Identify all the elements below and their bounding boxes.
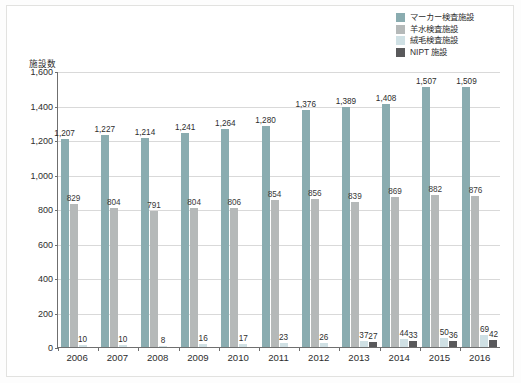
bar[interactable]: 869 xyxy=(391,197,399,347)
bar-value-label: 882 xyxy=(428,185,442,194)
bar-value-label: 1,214 xyxy=(135,128,156,137)
bar[interactable]: 10 xyxy=(119,345,127,347)
x-axis-labels: 2006200720082009201020112012201320142015… xyxy=(57,352,500,363)
bar[interactable]: 8 xyxy=(159,346,167,347)
legend-item: 絨毛検査施設 xyxy=(396,35,516,47)
y-tick-label: 1,600 xyxy=(30,67,53,77)
bar[interactable]: 44 xyxy=(400,339,408,347)
x-axis-label: 2015 xyxy=(419,352,459,363)
bar-group: 1,28085423 xyxy=(259,72,299,347)
bars: 1,3898393727 xyxy=(342,72,377,347)
legend-swatch-icon xyxy=(396,13,405,22)
bar-value-label: 26 xyxy=(319,333,328,342)
bar-value-label: 806 xyxy=(228,198,242,207)
bar[interactable]: 10 xyxy=(79,345,87,347)
bar-value-label: 1,389 xyxy=(336,97,357,106)
legend-label: 羊水検査施設 xyxy=(410,25,458,34)
bar[interactable]: 856 xyxy=(311,199,319,347)
y-tick-label: 1,400 xyxy=(30,102,53,112)
bar-value-label: 804 xyxy=(107,198,121,207)
bar[interactable]: 1,507 xyxy=(422,87,430,347)
x-tick-mark xyxy=(299,347,300,351)
bar-group: 1,20782910 xyxy=(58,72,98,347)
bars: 1,2147918 xyxy=(141,72,176,347)
bar[interactable]: 1,214 xyxy=(141,138,149,347)
y-tick-label: 0 xyxy=(48,343,53,353)
bar[interactable]: 27 xyxy=(369,342,377,347)
bar[interactable]: 791 xyxy=(150,211,158,347)
bars: 1,37685626 xyxy=(302,72,337,347)
bar-value-label: 36 xyxy=(449,331,458,340)
bar[interactable]: 1,509 xyxy=(462,87,470,347)
bars: 1,4088694433 xyxy=(382,72,417,347)
bar-group: 1,24180416 xyxy=(179,72,219,347)
bar-value-label: 856 xyxy=(308,189,322,198)
bar[interactable]: 804 xyxy=(190,208,198,347)
bar-value-label: 1,509 xyxy=(456,77,477,86)
legend-item: 羊水検査施設 xyxy=(396,24,516,36)
bar[interactable]: 37 xyxy=(360,341,368,347)
bar-value-label: 1,376 xyxy=(295,100,316,109)
bar[interactable]: 1,389 xyxy=(342,107,350,347)
bar-value-label: 8 xyxy=(161,336,166,345)
bar[interactable]: 1,264 xyxy=(221,129,229,347)
legend-label: 絨毛検査施設 xyxy=(410,36,458,45)
bar-group: 1,2147918 xyxy=(138,72,178,347)
bar[interactable]: 42 xyxy=(489,340,497,347)
x-axis-label: 2013 xyxy=(339,352,379,363)
bar[interactable]: 1,207 xyxy=(61,139,69,347)
bar[interactable]: 33 xyxy=(409,341,417,347)
bar[interactable]: 854 xyxy=(271,200,279,347)
x-tick-mark xyxy=(58,347,59,351)
y-tick-label: 400 xyxy=(38,274,53,284)
x-tick-mark xyxy=(259,347,260,351)
bar-value-label: 27 xyxy=(368,332,377,341)
chart-legend: マーカー検査施設羊水検査施設絨毛検査施設NIPT 施設 xyxy=(396,12,516,58)
bar[interactable]: 1,408 xyxy=(382,104,390,347)
bar-value-label: 804 xyxy=(187,198,201,207)
bar[interactable]: 1,241 xyxy=(181,133,189,347)
bar[interactable]: 50 xyxy=(440,338,448,347)
bar-value-label: 69 xyxy=(480,325,489,334)
bar[interactable]: 17 xyxy=(239,344,247,347)
bar-value-label: 869 xyxy=(388,187,402,196)
bar[interactable]: 1,227 xyxy=(101,135,109,347)
bar[interactable]: 16 xyxy=(199,344,207,347)
legend-item: NIPT 施設 xyxy=(396,47,516,59)
bar[interactable]: 1,376 xyxy=(302,110,310,347)
bar[interactable]: 804 xyxy=(110,208,118,347)
bars: 1,5078825036 xyxy=(422,72,457,347)
bar-value-label: 1,241 xyxy=(175,123,196,132)
bar[interactable]: 36 xyxy=(449,341,457,347)
bar-groups: 1,207829101,227804101,21479181,241804161… xyxy=(58,72,500,347)
bar-group: 1,5098766942 xyxy=(460,72,500,347)
bar-group: 1,26480617 xyxy=(219,72,259,347)
bar-value-label: 839 xyxy=(348,192,362,201)
bar-group: 1,22780410 xyxy=(98,72,138,347)
bar-value-label: 17 xyxy=(239,334,248,343)
bar[interactable]: 69 xyxy=(480,335,488,347)
bar[interactable]: 23 xyxy=(280,343,288,347)
bar-value-label: 1,408 xyxy=(376,94,397,103)
bar-value-label: 50 xyxy=(440,328,449,337)
bar[interactable]: 882 xyxy=(431,195,439,347)
bars: 1,20782910 xyxy=(61,72,96,347)
bar-value-label: 1,207 xyxy=(54,129,75,138)
legend-swatch-icon xyxy=(396,25,405,34)
bars: 1,5098766942 xyxy=(462,72,497,347)
bar-value-label: 854 xyxy=(268,190,282,199)
bar[interactable]: 839 xyxy=(351,202,359,347)
bar-value-label: 42 xyxy=(489,330,498,339)
bars: 1,24180416 xyxy=(181,72,216,347)
bar[interactable]: 1,280 xyxy=(262,126,270,347)
legend-label: NIPT 施設 xyxy=(410,48,447,57)
bar-value-label: 16 xyxy=(199,334,208,343)
bar[interactable]: 26 xyxy=(320,343,328,347)
bar[interactable]: 829 xyxy=(70,204,78,347)
bar[interactable]: 806 xyxy=(230,208,238,347)
bars: 1,26480617 xyxy=(221,72,256,347)
bar[interactable]: 876 xyxy=(471,196,479,347)
x-tick-mark xyxy=(98,347,99,351)
bar-value-label: 10 xyxy=(78,335,87,344)
plot-area: 02004006008001,0001,2001,4001,600 1,2078… xyxy=(57,72,500,348)
